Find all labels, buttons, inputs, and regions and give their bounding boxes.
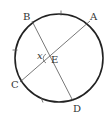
circle: [15, 14, 103, 102]
angle-label-x: x: [37, 50, 43, 61]
point-label-b: B: [23, 11, 30, 22]
chord-ac: [20, 21, 90, 82]
point-label-c: C: [11, 79, 19, 90]
point-label-e: E: [51, 54, 58, 65]
point-label-a: A: [89, 11, 98, 22]
point-label-d: D: [73, 103, 81, 114]
circle-diagram: B A C D E x: [0, 0, 112, 117]
